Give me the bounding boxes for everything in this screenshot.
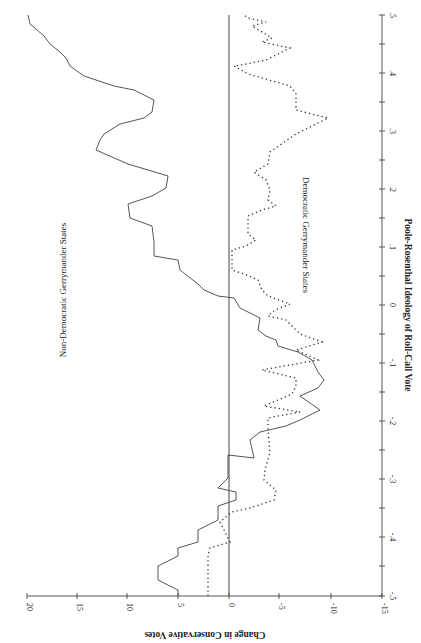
- svg-text:20: 20: [25, 603, 34, 611]
- solid-series-label: Non-Democratic Gerrymander States: [58, 222, 68, 357]
- svg-text:-.3: -.3: [388, 475, 397, 484]
- svg-text:.3: .3: [388, 128, 397, 134]
- svg-text:0: 0: [227, 603, 236, 607]
- svg-text:.4: .4: [388, 70, 397, 76]
- svg-text:.1: .1: [388, 244, 397, 250]
- svg-text:.5: .5: [388, 12, 397, 18]
- rotated-line-chart: .5 .4 .3 .2 .1 0 -.1 -.2 -.3 -.4 -.5 20 …: [0, 0, 421, 643]
- svg-text:10: 10: [125, 603, 134, 611]
- non-democratic-series-line: [28, 15, 324, 596]
- svg-text:0: 0: [388, 303, 397, 307]
- svg-text:-.2: -.2: [388, 417, 397, 426]
- svg-text:-.5: -.5: [388, 592, 397, 601]
- democratic-series-line: [208, 15, 328, 596]
- y-axis-title: Change in Conservative Votes: [144, 630, 265, 640]
- dotted-series-label: Democratic Gerrymander States: [301, 177, 311, 293]
- x-axis-tick-labels: .5 .4 .3 .2 .1 0 -.1 -.2 -.3 -.4 -.5: [388, 12, 397, 600]
- svg-text:15: 15: [75, 603, 84, 611]
- x-axis-title: Poole-Rosenthal Ideology of Roll-Call Vo…: [403, 218, 413, 391]
- y-axis-tick-labels: 20 15 10 5 0 -5 -10 -15: [25, 603, 389, 614]
- svg-text:-.4: -.4: [388, 533, 397, 542]
- svg-text:-5: -5: [277, 603, 286, 610]
- svg-text:-.1: -.1: [388, 359, 397, 368]
- svg-text:-10: -10: [329, 603, 338, 614]
- svg-text:-15: -15: [380, 603, 389, 614]
- svg-text:5: 5: [176, 603, 185, 607]
- svg-text:.2: .2: [388, 186, 397, 192]
